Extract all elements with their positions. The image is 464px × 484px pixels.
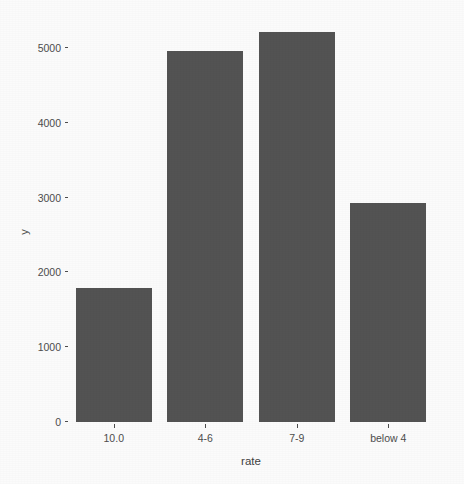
bar-slot-0 bbox=[68, 18, 160, 422]
y-tick-label: 2000 bbox=[38, 265, 61, 279]
y-tick-label: 5000 bbox=[38, 41, 61, 55]
x-tick-label: 7-9 bbox=[251, 432, 343, 444]
bar-7-9[interactable] bbox=[259, 32, 335, 422]
x-axis-title: rate bbox=[68, 455, 434, 467]
x-tick-label: 10.0 bbox=[68, 432, 160, 444]
bar-slot-3 bbox=[343, 18, 435, 422]
y-tick-3000: 3000 bbox=[0, 191, 70, 205]
y-tick-5000: 5000 bbox=[0, 41, 70, 55]
bar-slot-1 bbox=[160, 18, 252, 422]
y-tick-label: 4000 bbox=[38, 116, 61, 130]
y-tick-label: 3000 bbox=[38, 191, 61, 205]
x-tick-mark bbox=[297, 424, 298, 428]
bar-slot-2 bbox=[251, 18, 343, 422]
y-tick-2000: 2000 bbox=[0, 265, 70, 279]
bar-series bbox=[68, 18, 434, 422]
bar-10-0[interactable] bbox=[76, 288, 152, 422]
y-tick-label: 1000 bbox=[38, 340, 61, 354]
bar-below-4[interactable] bbox=[350, 203, 426, 422]
y-axis-ticks: 5000 4000 3000 2000 1000 0 bbox=[0, 0, 70, 484]
bar-4-6[interactable] bbox=[167, 51, 243, 422]
x-tick-mark bbox=[205, 424, 206, 428]
x-tick-label: below 4 bbox=[343, 432, 435, 444]
plot-panel bbox=[68, 18, 434, 422]
y-tick-4000: 4000 bbox=[0, 116, 70, 130]
x-tick-mark bbox=[388, 424, 389, 428]
y-tick-label: 0 bbox=[55, 415, 61, 429]
bar-chart-figure: y 5000 4000 3000 2000 1000 0 bbox=[0, 0, 464, 484]
y-tick-1000: 1000 bbox=[0, 340, 70, 354]
x-tick-label: 4-6 bbox=[160, 432, 252, 444]
y-tick-0: 0 bbox=[0, 415, 70, 429]
x-tick-mark bbox=[114, 424, 115, 428]
